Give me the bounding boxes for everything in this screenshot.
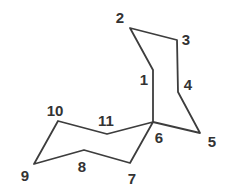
- atom-label-2: 2: [116, 9, 124, 26]
- atom-label-9: 9: [21, 167, 29, 184]
- atom-label-7: 7: [128, 170, 136, 187]
- atom-label-6: 6: [155, 129, 163, 146]
- atom-label-5: 5: [208, 133, 216, 150]
- cyclohexane-ring-bottom: [34, 121, 153, 164]
- atom-label-1: 1: [140, 71, 148, 88]
- atom-label-4: 4: [184, 76, 193, 93]
- atom-label-3: 3: [182, 31, 190, 48]
- atom-label-11: 11: [98, 112, 114, 129]
- molecule-diagram: 1234567891011: [0, 0, 225, 189]
- atom-label-10: 10: [47, 102, 64, 119]
- molecule-svg: 1234567891011: [0, 0, 225, 189]
- atom-label-8: 8: [78, 158, 86, 175]
